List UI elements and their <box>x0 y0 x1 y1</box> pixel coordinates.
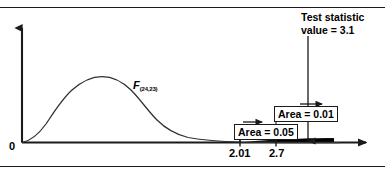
curve-label: F(24,23) <box>133 79 157 93</box>
f-distribution-figure: 0 2.01 2.7 F(24,23) Test statistic value… <box>0 0 385 179</box>
curve-label-subscript: (24,23) <box>140 86 158 92</box>
test-statistic-annotation: Test statistic value = 3.1 <box>301 11 364 37</box>
curve-label-symbol: F <box>133 79 140 91</box>
x-tick-label-2.01: 2.01 <box>229 147 250 159</box>
origin-label: 0 <box>9 140 15 152</box>
area-label-001: Area = 0.01 <box>274 106 338 122</box>
area-label-005: Area = 0.05 <box>234 124 298 140</box>
x-tick-label-2.7: 2.7 <box>269 147 284 159</box>
